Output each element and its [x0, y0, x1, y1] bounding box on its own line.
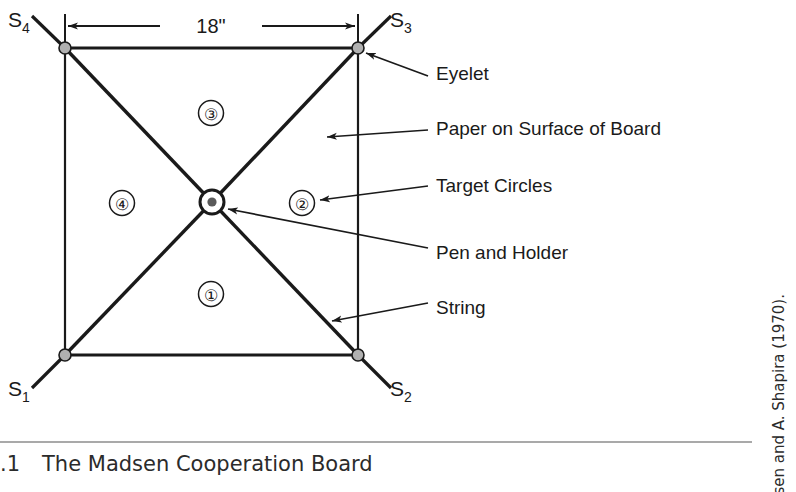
string-tail-s4: [32, 16, 65, 48]
callout-leader-target-circles: [320, 186, 428, 200]
quadrant-marker-4: ④: [110, 191, 135, 216]
callout-leader-paper: [327, 130, 428, 137]
corner-label-s2: S2: [390, 377, 412, 405]
madsen-cooperation-board-diagram: 18" ③ ④ ②: [0, 0, 796, 492]
quadrant-label-3: ③: [204, 106, 218, 123]
corner-label-s3: S3: [390, 8, 412, 36]
dimension-line-18in: 18": [65, 14, 358, 44]
source-note-text: Source: From M. C. Madsen and A. Shapira…: [770, 294, 788, 492]
eyelet-s2: [352, 349, 364, 361]
callout-label-target-circles: Target Circles: [436, 175, 552, 196]
string-tail-s3: [358, 16, 391, 48]
figure-caption: .1The Madsen Cooperation Board: [0, 452, 740, 476]
string-s3-center: [212, 48, 358, 202]
eyelet-s4: [59, 42, 71, 54]
corner-label-s4: S4: [8, 8, 30, 36]
string-tail-s1: [32, 355, 65, 388]
figure-number: .1: [0, 452, 20, 476]
callout-leader-pen-holder: [228, 209, 428, 248]
eyelet-s3: [352, 42, 364, 54]
dimension-label: 18": [196, 15, 225, 37]
callout-leader-string: [332, 303, 428, 321]
callout-pen-holder: Pen and Holder: [228, 209, 569, 263]
callout-label-pen-holder: Pen and Holder: [436, 242, 569, 263]
eyelet-s1: [59, 349, 71, 361]
callout-leader-eyelet: [366, 53, 428, 76]
callout-label-eyelet: Eyelet: [436, 63, 490, 84]
quadrant-marker-3: ③: [199, 101, 224, 126]
quadrant-label-4: ④: [115, 196, 129, 213]
quadrant-label-2: ②: [295, 196, 309, 213]
callout-string: String: [332, 297, 486, 321]
pen-and-holder: [200, 190, 224, 214]
figure-title: The Madsen Cooperation Board: [42, 452, 373, 476]
corner-label-s1: S1: [8, 377, 30, 405]
callout-label-paper: Paper on Surface of Board: [436, 118, 661, 139]
source-note: Source: From M. C. Madsen and A. Shapira…: [764, 0, 794, 492]
callout-paper: Paper on Surface of Board: [327, 118, 661, 139]
callout-eyelet: Eyelet: [366, 53, 490, 84]
string-s2-center: [212, 202, 358, 355]
quadrant-marker-1: ①: [199, 282, 224, 307]
quadrant-marker-2: ②: [290, 191, 315, 216]
figure-root: 18" ③ ④ ②: [0, 0, 796, 492]
callout-label-string: String: [436, 297, 486, 318]
callouts-group: Eyelet Paper on Surface of Board Target …: [228, 53, 661, 321]
string-s4-center: [65, 48, 212, 202]
callout-target-circles: Target Circles: [320, 175, 552, 200]
quadrant-label-1: ①: [204, 287, 218, 304]
pen-tip-dot: [207, 197, 216, 206]
string-tail-s2: [358, 355, 391, 388]
string-s1-center: [65, 202, 212, 355]
